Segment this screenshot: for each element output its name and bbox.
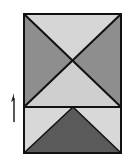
quilt-block-diagram: [0, 0, 134, 161]
arrow-up-icon: [11, 93, 14, 122]
